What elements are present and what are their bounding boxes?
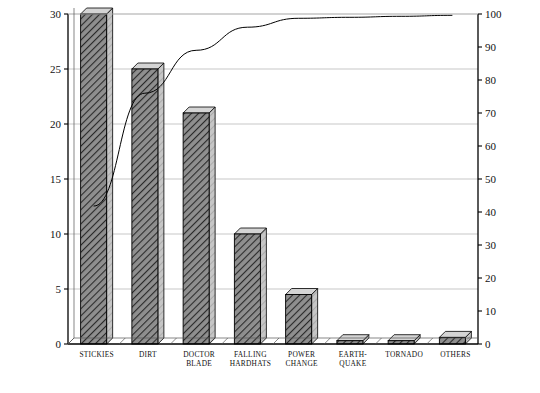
- bar: [234, 234, 260, 344]
- y-axis-right-tick: 100: [485, 8, 502, 20]
- y-axis-left-tick: 0: [56, 338, 62, 350]
- bar-top-face: [439, 331, 471, 337]
- y-axis-left-tick: 20: [50, 118, 62, 130]
- category-label: OTHERS: [440, 350, 470, 359]
- bar-side-face: [209, 107, 215, 344]
- bar-side-face: [158, 63, 164, 344]
- category-label: HARDHATS: [230, 359, 271, 368]
- y-axis-right-tick: 10: [485, 305, 497, 317]
- category-label: BLADE: [186, 359, 212, 368]
- bar-side-face: [312, 289, 318, 345]
- bar: [81, 14, 107, 344]
- category-label: TORNADO: [385, 350, 423, 359]
- y-axis-right-tick: 70: [485, 107, 497, 119]
- y-axis-left-tick: 25: [50, 63, 62, 75]
- bar: [286, 295, 312, 345]
- y-axis-right-tick: 80: [485, 74, 497, 86]
- y-axis-left-tick: 10: [50, 228, 62, 240]
- bar-top-face: [286, 289, 318, 295]
- bar-top-face: [183, 107, 215, 113]
- y-axis-right-tick: 30: [485, 239, 497, 251]
- y-axis-right-tick: 90: [485, 41, 497, 53]
- y-axis-right-tick: 40: [485, 206, 497, 218]
- y-axis-right-tick: 60: [485, 140, 497, 152]
- bar: [132, 69, 158, 344]
- bar: [439, 337, 465, 344]
- y-axis-left-tick: 5: [56, 283, 62, 295]
- y-axis-left-tick: 15: [50, 173, 62, 185]
- category-label: QUAKE: [339, 359, 366, 368]
- pareto-chart: 0510152025300102030405060708090100 STICK…: [0, 0, 540, 393]
- bar: [183, 113, 209, 344]
- y-axis-right-tick: 50: [485, 173, 497, 185]
- bar-side-face: [260, 228, 266, 344]
- y-axis-right-tick: 0: [485, 338, 491, 350]
- bar-side-face: [107, 8, 113, 344]
- bar-top-face: [234, 228, 266, 234]
- category-label: CHANGE: [285, 359, 318, 368]
- y-axis-left-tick: 30: [50, 8, 62, 20]
- bar-top-face: [132, 63, 164, 69]
- bar-top-face: [81, 8, 113, 14]
- category-label: STICKIES: [79, 350, 113, 359]
- category-label: DIRT: [139, 350, 157, 359]
- y-axis-right-tick: 20: [485, 272, 497, 284]
